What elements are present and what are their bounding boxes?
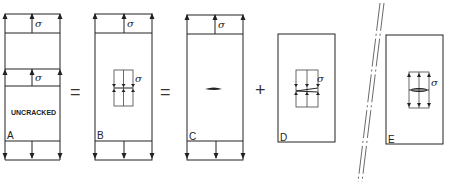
sigma-label: σ (218, 19, 226, 30)
sigma-label: σ (431, 77, 439, 88)
panel-label-e: E (388, 134, 395, 145)
sigma-label: σ (35, 18, 43, 29)
panel-label-b: B (97, 130, 104, 141)
sigma-label: σ (135, 73, 143, 84)
panel-label-c: C (189, 131, 196, 142)
panel-c: σ C (185, 14, 246, 160)
uncracked-label: UNCRACKED (11, 109, 56, 116)
sigma-label: σ (317, 73, 325, 84)
sigma-label: σ (127, 18, 135, 29)
panel-e: σ E (386, 35, 443, 145)
sigma-label: σ (35, 72, 43, 83)
panel-label-d: D (280, 132, 287, 143)
crack-icon (205, 88, 222, 91)
panel-b: σ σ B (93, 13, 155, 160)
crack-superposition-diagram: σ σ UNCRACKED A = σ σ B = σ C + (0, 0, 450, 185)
plus-operator: + (255, 80, 266, 100)
equals-operator: = (70, 82, 81, 102)
equals-operator: = (160, 82, 171, 102)
panel-d: σ D (278, 34, 335, 143)
panel-label-a: A (7, 130, 14, 141)
break-lines (358, 3, 384, 182)
panel-a: σ σ UNCRACKED A (3, 13, 63, 160)
